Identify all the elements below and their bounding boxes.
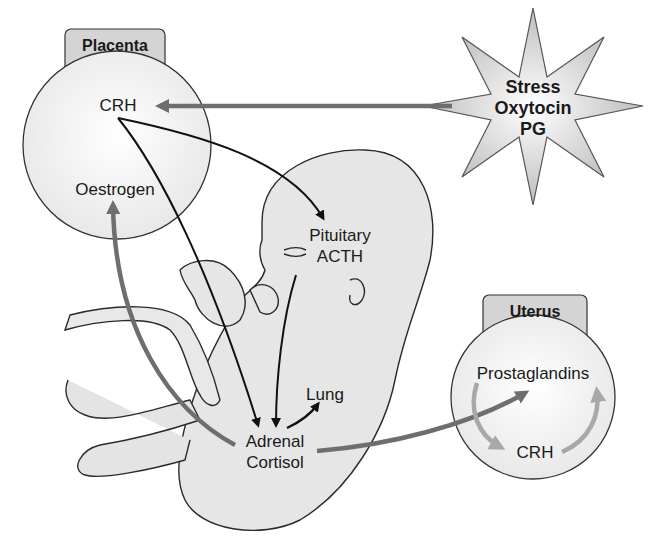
fetal-parturition-diagram: Placenta CRH Oestrogen Stress Oxytocin P… <box>0 0 654 542</box>
prostaglandins-label: Prostaglandins <box>473 364 593 384</box>
cortisol-label: Cortisol <box>240 453 310 473</box>
adrenal-label: Adrenal <box>240 432 310 452</box>
lung-label: Lung <box>300 385 350 405</box>
stimuli-line-1: Stress <box>483 77 583 98</box>
uterus-crh-label: CRH <box>512 443 558 463</box>
acth-label: ACTH <box>300 247 380 267</box>
pituitary-label: Pituitary <box>300 226 380 246</box>
uterus-title: Uterus <box>483 302 587 322</box>
placenta-title: Placenta <box>65 36 165 56</box>
placenta-crh-label: CRH <box>95 96 141 116</box>
stimuli-line-3: PG <box>483 119 583 140</box>
stimuli-line-2: Oxytocin <box>483 98 583 119</box>
oestrogen-label: Oestrogen <box>72 180 158 200</box>
